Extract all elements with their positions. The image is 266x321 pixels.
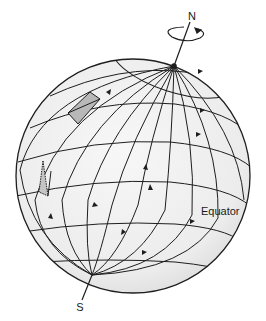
equator-label: Equator bbox=[201, 205, 240, 217]
globe-diagram: N S Equator bbox=[0, 0, 266, 321]
globe bbox=[16, 59, 250, 293]
north-label: N bbox=[188, 10, 196, 22]
south-label: S bbox=[76, 301, 83, 313]
